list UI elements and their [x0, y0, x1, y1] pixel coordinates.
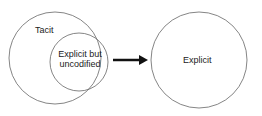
diagram-canvas — [0, 0, 262, 116]
inner-label-line2: uncodified — [59, 59, 100, 69]
tacit-label: Tacit — [35, 25, 54, 35]
explicit-label: Explicit — [183, 55, 212, 65]
inner-label-line1: Explicit but — [58, 49, 102, 59]
right-arrow-icon — [113, 55, 148, 65]
explicit-uncodified-label: Explicit but uncodified — [55, 49, 105, 69]
